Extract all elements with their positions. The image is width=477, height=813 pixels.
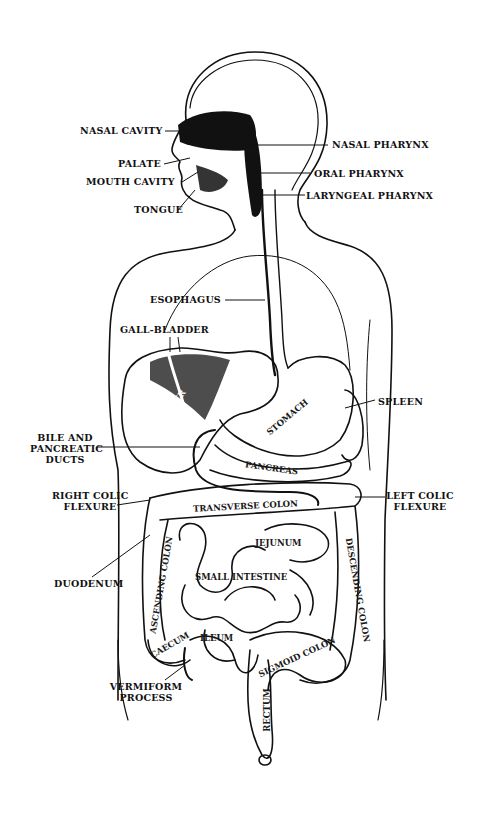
label-spleen: SPLEEN <box>378 396 423 407</box>
esophagus-tube <box>262 190 275 375</box>
label-duodenum: DUODENUM <box>54 578 123 589</box>
label-vermiform-line1: VERMIFORM <box>106 681 186 692</box>
label-palate: PALATE <box>118 158 161 169</box>
label-oral-pharynx: ORAL PHARYNX <box>314 168 404 179</box>
label-nasal-pharynx: NASAL PHARYNX <box>332 139 429 150</box>
label-tongue: TONGUE <box>134 204 183 215</box>
stomach-outline <box>220 357 353 456</box>
label-vermiform-line2: PROCESS <box>106 692 186 703</box>
label-right-colic-line1: RIGHT COLIC <box>52 490 128 501</box>
label-nasal-cavity: NASAL CAVITY <box>80 125 163 136</box>
nasal-pharynx-fill <box>178 111 262 217</box>
label-bile-line2: PANCREATIC <box>30 443 100 454</box>
label-right-colic-flexure: RIGHT COLIC FLEXURE <box>52 490 128 512</box>
organ-label-small-intestine: SMALL INTESTINE <box>195 572 287 582</box>
label-vermiform-process: VERMIFORM PROCESS <box>106 681 186 703</box>
label-left-colic-line2: FLEXURE <box>385 501 455 512</box>
organ-label-jejunum: JEJUNUM <box>255 538 302 548</box>
label-bile-pancreatic-ducts: BILE AND PANCREATIC DUCTS <box>30 432 100 465</box>
liver-shading <box>150 354 230 420</box>
organ-label-rectum: RECTUM <box>262 688 272 731</box>
vermiform-appendix <box>184 648 192 680</box>
organ-label-ileum: ILEUM <box>200 633 233 643</box>
label-laryngeal-pharynx: LARYNGEAL PHARYNX <box>306 190 433 201</box>
label-gall-bladder: GALL-BLADDER <box>120 324 209 335</box>
label-left-colic-line1: LEFT COLIC <box>385 490 455 501</box>
label-right-colic-line2: FLEXURE <box>52 501 128 512</box>
label-left-colic-flexure: LEFT COLIC FLEXURE <box>385 490 455 512</box>
label-mouth-cavity: MOUTH CAVITY <box>86 176 175 187</box>
label-bile-line1: BILE AND <box>30 432 100 443</box>
digestive-system-diagram: NASAL CAVITY PALATE MOUTH CAVITY TONGUE … <box>0 0 477 813</box>
label-esophagus: ESOPHAGUS <box>150 294 221 305</box>
label-bile-line3: DUCTS <box>30 454 100 465</box>
